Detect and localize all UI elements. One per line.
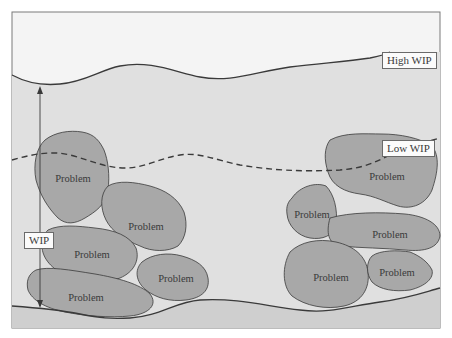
problem-rock-label: Problem — [369, 171, 405, 182]
problem-rock-label: Problem — [313, 272, 349, 283]
problem-rock-label: Problem — [55, 173, 91, 184]
wip-label: WIP — [24, 232, 54, 249]
problem-rock-label: Problem — [74, 249, 110, 260]
diagram-canvas — [0, 0, 452, 338]
problem-rock-label: Problem — [158, 273, 194, 284]
problem-rock-label: Problem — [128, 221, 164, 232]
problem-rock-label: Problem — [68, 292, 104, 303]
problem-rock-label: Problem — [294, 209, 330, 220]
high-wip-label: High WIP — [382, 52, 437, 69]
problem-rock-label: Problem — [372, 229, 408, 240]
low-wip-label: Low WIP — [382, 140, 435, 157]
problem-rock-label: Problem — [379, 267, 415, 278]
